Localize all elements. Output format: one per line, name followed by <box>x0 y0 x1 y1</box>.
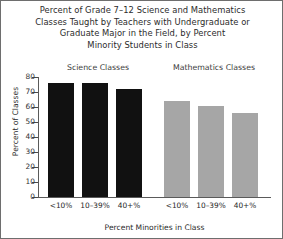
chart-title-line-1: Percent of Grade 7–12 Science and Mathem… <box>9 5 276 17</box>
x-axis-line <box>38 197 271 198</box>
bar-science-2 <box>116 89 142 197</box>
y-tick-label: 0 <box>30 192 35 201</box>
bar-math-2 <box>232 113 258 197</box>
y-tick-label: 80 <box>26 72 35 81</box>
y-axis-title: Percent of Classes <box>11 67 20 177</box>
y-tick-label: 20 <box>26 162 35 171</box>
y-tick-70: 70 <box>38 92 44 93</box>
bar-math-0 <box>164 101 190 197</box>
bar-science-1 <box>82 83 108 197</box>
category-label-science-2: 40+% <box>109 201 149 210</box>
bar-science-0 <box>48 83 74 197</box>
y-tick-10: 10 <box>38 182 44 183</box>
plot-area: 01020304050607080 Science Classes Mathem… <box>38 77 271 198</box>
y-tick-label: 10 <box>26 177 35 186</box>
y-tick-40: 40 <box>38 137 44 138</box>
y-tick-50: 50 <box>38 122 44 123</box>
y-tick-80: 80 <box>38 77 44 78</box>
chart-title-line-4: Minority Students in Class <box>9 40 276 52</box>
y-tick-20: 20 <box>38 167 44 168</box>
group-label-science: Science Classes <box>46 63 150 72</box>
chart-title-line-3: Graduate Major in the Field, by Percent <box>9 28 276 40</box>
category-label-math-2: 40+% <box>225 201 265 210</box>
y-tick-label: 40 <box>26 132 35 141</box>
group-label-mathematics: Mathematics Classes <box>162 63 266 72</box>
y-tick-label: 60 <box>26 102 35 111</box>
chart-title-line-2: Classes Taught by Teachers with Undergra… <box>9 17 276 29</box>
y-tick-label: 30 <box>26 147 35 156</box>
y-tick-label: 70 <box>26 87 35 96</box>
y-tick-0: 0 <box>38 197 44 198</box>
x-axis-title: Percent Minorities in Class <box>38 223 271 232</box>
chart-figure: Percent of Grade 7–12 Science and Mathem… <box>0 0 283 239</box>
y-tick-label: 50 <box>26 117 35 126</box>
y-tick-60: 60 <box>38 107 44 108</box>
chart-title: Percent of Grade 7–12 Science and Mathem… <box>9 5 276 51</box>
y-tick-30: 30 <box>38 152 44 153</box>
bar-math-1 <box>198 106 224 198</box>
